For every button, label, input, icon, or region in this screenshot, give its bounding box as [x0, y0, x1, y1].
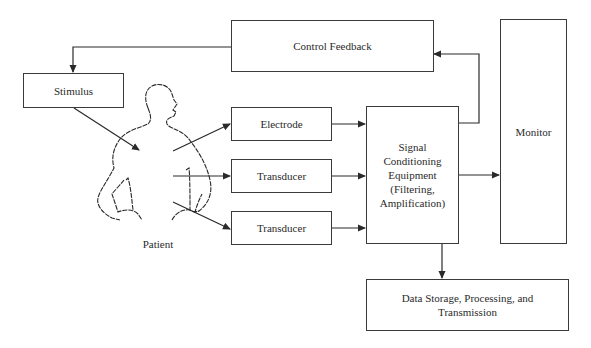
- transducer-1-box: Transducer: [231, 159, 332, 193]
- arrow-patient-to-electrode: [173, 124, 230, 151]
- arrow-patient-to-transducer-2: [173, 202, 230, 229]
- data-storage-box: Data Storage, Processing, and Transmissi…: [366, 279, 569, 331]
- data-storage-label: Data Storage, Processing, and Transmissi…: [397, 291, 538, 319]
- monitor-label: Monitor: [515, 125, 551, 139]
- control-feedback-label: Control Feedback: [293, 39, 372, 53]
- electrode-box: Electrode: [231, 107, 332, 141]
- arrow-stimulus-to-patient: [74, 108, 139, 150]
- transducer-1-label: Transducer: [257, 169, 306, 183]
- stimulus-label: Stimulus: [54, 84, 93, 98]
- patient-label: Patient: [128, 238, 188, 250]
- arrow-feedback-to-stimulus: [73, 47, 231, 72]
- signal-conditioning-box: Signal Conditioning Equipment (Filtering…: [366, 106, 459, 244]
- control-feedback-box: Control Feedback: [231, 20, 434, 72]
- transducer-2-box: Transducer: [231, 211, 332, 245]
- signal-conditioning-label: Signal Conditioning Equipment (Filtering…: [373, 140, 452, 210]
- electrode-label: Electrode: [260, 117, 302, 131]
- transducer-2-label: Transducer: [257, 221, 306, 235]
- monitor-box: Monitor: [500, 19, 567, 244]
- stimulus-box: Stimulus: [23, 73, 124, 108]
